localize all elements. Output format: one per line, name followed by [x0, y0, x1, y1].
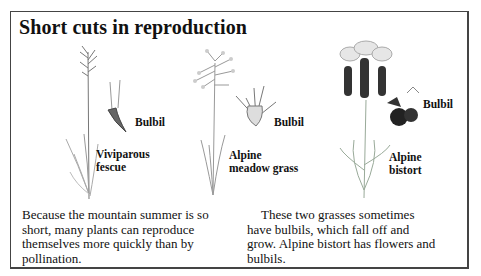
page-title: Short cuts in reproduction: [19, 16, 247, 39]
bistort-bulbil-illustration: [385, 85, 425, 130]
fescue-bulbil-illustration: [104, 80, 134, 140]
meadow-grass-name: Alpine meadow grass: [229, 149, 298, 175]
bistort-name: Alpine bistort: [389, 151, 422, 177]
meadow-grass-bulbil-label: Bulbil: [274, 116, 304, 129]
fescue-bulbil-label: Bulbil: [135, 116, 165, 129]
right-paragraph: These two grasses sometimes have bulbils…: [247, 208, 435, 266]
fescue-name: Viviparous fescue: [96, 148, 150, 174]
meadow-grass-bulbil-illustration: [234, 78, 279, 128]
bistort-bulbil-label: Bulbil: [423, 98, 453, 111]
left-paragraph: Because the mountain summer is so short,…: [22, 208, 209, 266]
